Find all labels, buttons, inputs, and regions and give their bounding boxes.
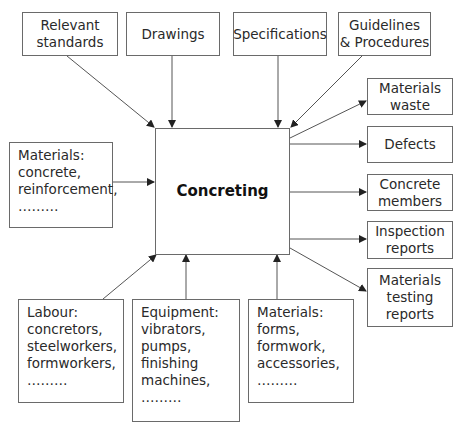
text-line: standards (37, 34, 104, 51)
text-line: concretors, (27, 321, 123, 338)
input-materials-forms: Materials: forms, formwork, accessories,… (248, 299, 354, 403)
text-line: & Procedures (340, 34, 430, 51)
text-line: ……… (27, 372, 123, 389)
concreting-process-diagram: Concreting Relevant standards Drawings S… (0, 0, 459, 430)
text-line: Defects (384, 136, 436, 153)
process-concreting: Concreting (155, 128, 290, 255)
text-line: Relevant (40, 17, 99, 34)
text-line: Labour: (27, 304, 123, 321)
text-line: vibrators, (141, 321, 239, 338)
input-materials-concrete: Materials: concrete, reinforcement, ……… (9, 142, 113, 228)
text-line: formwork, (257, 338, 353, 355)
text-line: Materials (379, 80, 441, 97)
text-line: reinforcement, (18, 181, 112, 198)
text-line: testing (387, 289, 434, 306)
text-line: finishing (141, 355, 239, 372)
output-defects: Defects (367, 126, 453, 163)
process-label: Concreting (176, 183, 268, 200)
text-line: machines, (141, 372, 239, 389)
text-line: Materials: (18, 147, 112, 164)
text-line: Equipment: (141, 304, 239, 321)
text-line: Inspection (375, 223, 445, 240)
output-inspection-reports: Inspection reports (367, 221, 453, 259)
text-line: ……… (18, 198, 112, 215)
text-line: Materials (379, 272, 441, 289)
text-line: Drawings (141, 26, 204, 43)
text-line: pumps, (141, 338, 239, 355)
text-line: forms, (257, 321, 353, 338)
text-line: reports (386, 306, 434, 323)
output-concrete-members: Concrete members (367, 174, 453, 211)
input-labour: Labour: concretors, steelworkers, formwo… (18, 299, 124, 403)
text-line: members (378, 193, 442, 210)
input-drawings: Drawings (126, 12, 220, 56)
input-equipment: Equipment: vibrators, pumps, finishing m… (132, 299, 240, 422)
text-line: ……… (257, 372, 353, 389)
output-materials-testing-reports: Materials testing reports (367, 268, 453, 327)
input-relevant-standards: Relevant standards (22, 12, 118, 56)
text-line: concrete, (18, 164, 112, 181)
input-specifications: Specifications (233, 12, 327, 56)
text-line: ……… (141, 389, 239, 406)
text-line: Guidelines (349, 17, 420, 34)
text-line: Concrete (380, 176, 441, 193)
output-materials-waste: Materials waste (367, 78, 453, 115)
text-line: Specifications (233, 26, 327, 43)
text-line: Materials: (257, 304, 353, 321)
text-line: accessories, (257, 355, 353, 372)
input-guidelines-procedures: Guidelines & Procedures (338, 12, 431, 56)
text-line: formworkers, (27, 355, 123, 372)
text-line: reports (386, 240, 434, 257)
text-line: steelworkers, (27, 338, 123, 355)
text-line: waste (390, 97, 430, 114)
